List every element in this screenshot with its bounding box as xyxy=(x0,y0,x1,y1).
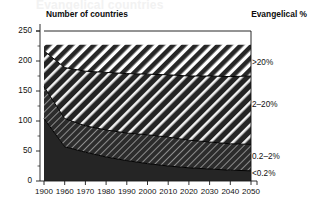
y-tick-label: 250 xyxy=(12,27,32,35)
band-label: >20% xyxy=(252,58,273,67)
y-axis-title: Number of countries xyxy=(46,9,128,19)
band-label: <0.2% xyxy=(252,169,275,178)
evangelical-countries-chart: Evangelical countries Number of countrie… xyxy=(0,0,313,207)
y-tick-label: 0 xyxy=(12,177,32,185)
y-tick-label: 100 xyxy=(12,117,32,125)
y-tick-label: 50 xyxy=(12,147,32,155)
y-tick-label: 150 xyxy=(12,87,32,95)
band-label: 0.2–2% xyxy=(252,152,280,161)
legend-title: Evangelical % xyxy=(251,9,307,19)
band-label: 2–20% xyxy=(252,100,278,109)
x-tick-label: 2050 xyxy=(239,187,263,196)
y-tick-label: 200 xyxy=(12,57,32,65)
